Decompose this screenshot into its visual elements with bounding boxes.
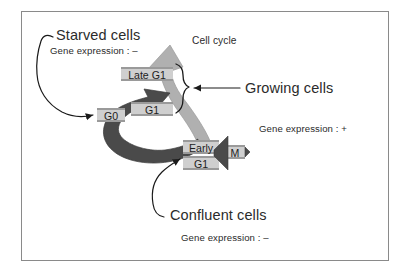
growing-cells-title: Growing cells [245,81,333,96]
growing-cells-brace-icon [176,64,189,113]
confluent-cells-title: Confluent cells [170,208,267,223]
figure-canvas: Late G1 G1 G0 Early G1 M [0,0,415,275]
starved-cells-title: Starved cells [56,28,140,43]
growing-cells-expression: Gene expression : + [259,124,347,134]
cell-cycle-title: Cell cycle [192,36,237,46]
starved-cells-expression: Gene expression : – [50,46,138,56]
confluent-cells-expression: Gene expression : – [181,233,269,243]
